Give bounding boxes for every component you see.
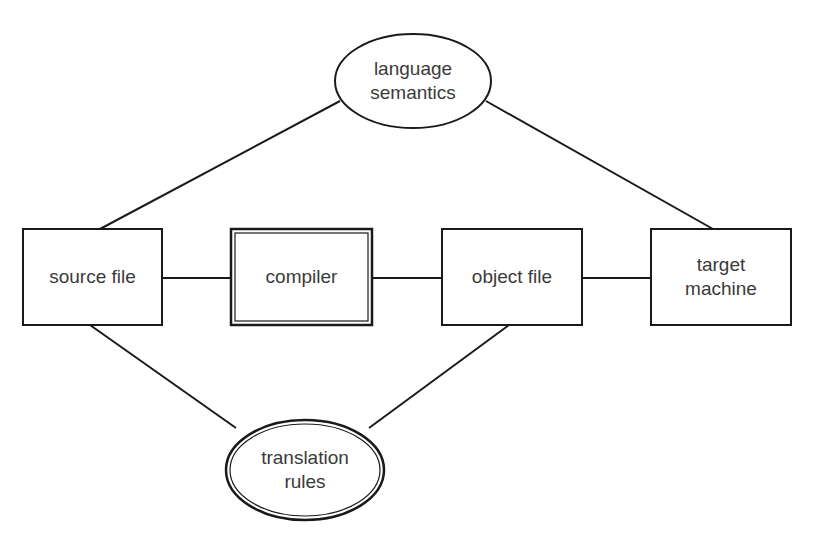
node-source-file-label: source file [23, 229, 162, 325]
node-translation-rules-label: translation rules [226, 420, 384, 520]
node-target-machine-label: target machine [651, 229, 791, 325]
edge-semantics-source [100, 101, 340, 229]
node-object-file-label: object file [442, 229, 582, 325]
node-language-semantics-label: language semantics [335, 34, 491, 128]
edge-source-rules [90, 325, 236, 428]
node-compiler-label: compiler [231, 229, 372, 325]
edge-semantics-target [486, 101, 713, 229]
edge-object-rules [369, 325, 509, 428]
